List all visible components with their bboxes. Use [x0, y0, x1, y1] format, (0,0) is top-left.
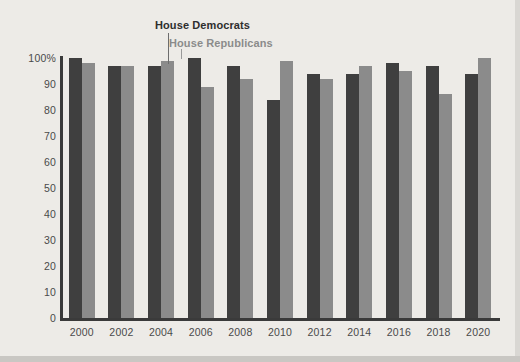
- leader-line-republicans: [181, 49, 182, 59]
- bar-chart: 100%9080706050403020100 2000200220042006…: [0, 0, 520, 362]
- page-edge-bottom: [0, 356, 520, 362]
- x-axis-tick-labels: 2000200220042006200820102012201420162018…: [62, 326, 498, 346]
- x-tick-label: 2000: [70, 326, 94, 338]
- bar-democrats-2016: [386, 63, 399, 318]
- y-tick-label: 30: [10, 234, 56, 246]
- plot-area: [62, 58, 498, 318]
- x-tick-label: 2008: [228, 326, 252, 338]
- bar-republicans-2004: [161, 61, 174, 318]
- y-tick-label: 20: [10, 260, 56, 272]
- bar-republicans-2002: [121, 66, 134, 318]
- y-tick-label: 100%: [10, 52, 56, 64]
- bar-republicans-2016: [399, 71, 412, 318]
- x-tick-label: 2010: [268, 326, 292, 338]
- x-tick-label: 2018: [426, 326, 450, 338]
- bar-republicans-2006: [201, 87, 214, 318]
- bar-republicans-2014: [359, 66, 372, 318]
- bar-democrats-2014: [346, 74, 359, 318]
- y-tick-label: 40: [10, 208, 56, 220]
- y-tick-label: 0: [10, 312, 56, 324]
- x-tick-label: 2014: [347, 326, 371, 338]
- bar-republicans-2020: [478, 58, 491, 318]
- bar-republicans-2010: [280, 61, 293, 318]
- bar-democrats-2008: [227, 66, 240, 318]
- bar-democrats-2006: [188, 58, 201, 318]
- bar-democrats-2010: [267, 100, 280, 318]
- x-tick-label: 2012: [308, 326, 332, 338]
- x-axis-line: [60, 318, 500, 321]
- y-tick-label: 60: [10, 156, 56, 168]
- y-tick-label: 50: [10, 182, 56, 194]
- bar-republicans-2012: [320, 79, 333, 318]
- bar-republicans-2018: [439, 94, 452, 318]
- bar-democrats-2004: [148, 66, 161, 318]
- y-tick-label: 80: [10, 104, 56, 116]
- y-axis-tick-labels: 100%9080706050403020100: [4, 0, 56, 362]
- y-tick-label: 90: [10, 78, 56, 90]
- x-tick-label: 2004: [149, 326, 173, 338]
- x-tick-label: 2016: [387, 326, 411, 338]
- series-label-house-republicans: House Republicans: [169, 37, 273, 49]
- bar-democrats-2002: [108, 66, 121, 318]
- x-tick-label: 2006: [189, 326, 213, 338]
- bar-democrats-2020: [465, 74, 478, 318]
- bar-democrats-2000: [69, 58, 82, 318]
- bar-democrats-2018: [426, 66, 439, 318]
- series-label-house-democrats: House Democrats: [155, 19, 250, 31]
- page-edge-right: [515, 0, 520, 362]
- bar-republicans-2000: [82, 63, 95, 318]
- bar-republicans-2008: [240, 79, 253, 318]
- bar-democrats-2012: [307, 74, 320, 318]
- y-tick-label: 10: [10, 286, 56, 298]
- y-tick-label: 70: [10, 130, 56, 142]
- x-tick-label: 2020: [466, 326, 490, 338]
- x-tick-label: 2002: [109, 326, 133, 338]
